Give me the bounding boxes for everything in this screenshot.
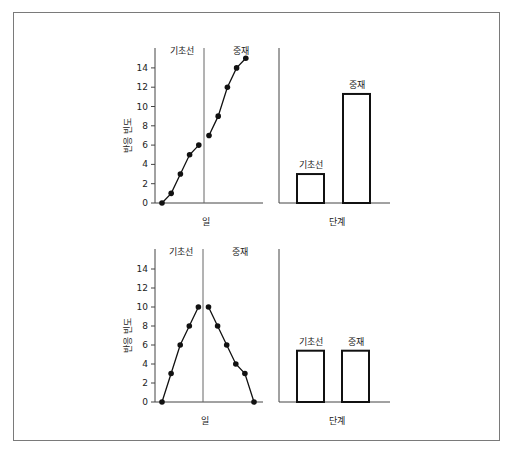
phase-label-baseline: 기초선 bbox=[170, 46, 194, 56]
data-point bbox=[215, 113, 221, 119]
bar-label: 기초선 bbox=[299, 160, 323, 170]
y-tick-label: 2 bbox=[142, 378, 148, 388]
data-point bbox=[187, 323, 193, 329]
data-point bbox=[225, 84, 231, 90]
y-tick-label: 4 bbox=[142, 359, 148, 369]
bar-label: 중재 bbox=[348, 337, 364, 347]
y-tick-label: 4 bbox=[142, 159, 148, 169]
x-axis-label: 일 bbox=[202, 217, 210, 227]
series-line bbox=[209, 307, 255, 402]
data-point bbox=[243, 55, 249, 61]
y-tick-label: 0 bbox=[142, 198, 148, 208]
data-point bbox=[159, 200, 165, 206]
bar-label: 중재 bbox=[349, 80, 365, 90]
data-point bbox=[196, 142, 202, 148]
y-tick-label: 6 bbox=[142, 340, 148, 350]
x-axis-label: 단계 bbox=[329, 415, 345, 426]
phase-label-intervention: 중재 bbox=[233, 46, 249, 56]
data-point bbox=[224, 342, 230, 348]
series-line bbox=[209, 58, 246, 135]
y-tick-label: 10 bbox=[137, 302, 149, 312]
y-tick-label: 14 bbox=[137, 63, 149, 73]
y-tick-label: 8 bbox=[142, 121, 148, 131]
series-line bbox=[162, 307, 198, 402]
bar-baseline bbox=[297, 351, 324, 402]
data-point bbox=[177, 342, 183, 348]
data-point bbox=[206, 133, 212, 139]
data-point bbox=[233, 361, 239, 367]
x-axis-label: 단계 bbox=[329, 216, 345, 227]
data-point bbox=[215, 323, 221, 329]
figure-canvas: 02468101214기초선중재일반응 빈도기초선중재단계02468101214… bbox=[0, 0, 512, 454]
bar-baseline bbox=[297, 174, 324, 203]
data-point bbox=[159, 399, 165, 405]
y-axis-label: 반응 빈도 bbox=[123, 118, 133, 153]
y-tick-label: 0 bbox=[142, 397, 148, 407]
data-point bbox=[178, 171, 184, 177]
data-point bbox=[168, 371, 174, 377]
phase-label-intervention: 중재 bbox=[232, 247, 248, 257]
y-tick-label: 2 bbox=[142, 179, 148, 189]
data-point bbox=[242, 371, 248, 377]
bar-intervention bbox=[343, 94, 370, 203]
data-point bbox=[251, 399, 257, 405]
y-tick-label: 6 bbox=[142, 140, 148, 150]
data-point bbox=[168, 191, 174, 197]
y-tick-label: 8 bbox=[142, 321, 148, 331]
y-tick-label: 10 bbox=[137, 102, 149, 112]
x-axis-label: 일 bbox=[201, 416, 209, 426]
phase-label-baseline: 기초선 bbox=[169, 247, 193, 257]
bar-label: 기초선 bbox=[299, 337, 323, 347]
data-point bbox=[234, 65, 240, 71]
y-tick-label: 14 bbox=[137, 264, 149, 274]
data-point bbox=[206, 304, 212, 310]
y-tick-label: 12 bbox=[137, 283, 148, 293]
y-tick-label: 12 bbox=[137, 82, 148, 92]
y-axis-label: 반응 빈도 bbox=[123, 318, 133, 353]
data-point bbox=[187, 152, 193, 158]
bar-intervention bbox=[342, 351, 369, 402]
data-point bbox=[196, 304, 202, 310]
